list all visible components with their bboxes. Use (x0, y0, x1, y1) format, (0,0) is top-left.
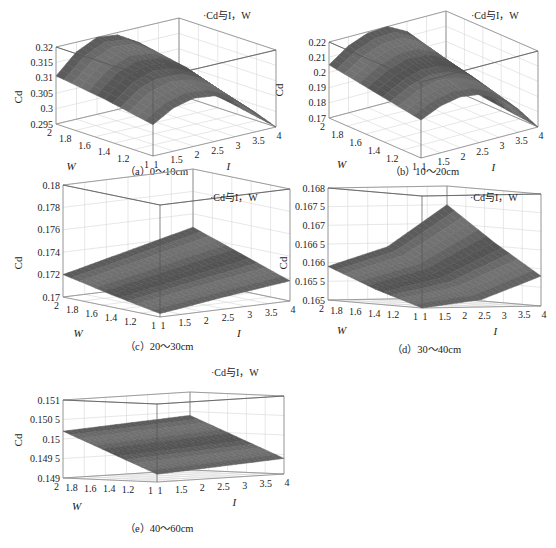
z-tick-labels: 0.1490.149 50.150.150 50.151 (30, 395, 60, 484)
i-tick-labels: 11.522.533.54 (158, 477, 290, 496)
surface (63, 415, 284, 474)
w-tick: 2 (54, 481, 59, 492)
i-tick: 1 (158, 485, 163, 496)
i-tick: 4 (285, 477, 290, 488)
i-tick: 1.5 (175, 484, 188, 495)
w-tick: 1.4 (103, 483, 116, 494)
i-axis-label: I (232, 496, 238, 508)
plot-e: 0.1490.149 50.150.150 50.15111.21.41.61.… (12, 392, 290, 512)
z-tick: 0.15 (43, 434, 61, 445)
w-tick: 1.8 (65, 482, 78, 493)
w-axis-label: W (72, 500, 82, 512)
caption-e: （e）40～60cm (125, 520, 194, 535)
w-tick-labels: 11.21.41.61.82 (54, 481, 153, 496)
w-tick: 1.2 (122, 484, 135, 495)
z-tick: 0.150 5 (30, 414, 60, 425)
w-tick: 1.6 (84, 483, 97, 494)
legend-e: ·Cd与I，W (211, 364, 259, 379)
i-tick: 3.5 (260, 478, 273, 489)
surface-plot-e: 0.1490.149 50.150.150 50.15111.21.41.61.… (0, 0, 556, 548)
cd-axis-label: Cd (12, 433, 24, 446)
i-tick: 3 (242, 480, 247, 491)
i-tick: 2 (200, 482, 205, 493)
z-tick: 0.151 (38, 395, 61, 406)
i-tick: 2.5 (217, 481, 230, 492)
z-tick: 0.149 5 (30, 453, 60, 464)
w-tick: 1 (148, 485, 153, 496)
